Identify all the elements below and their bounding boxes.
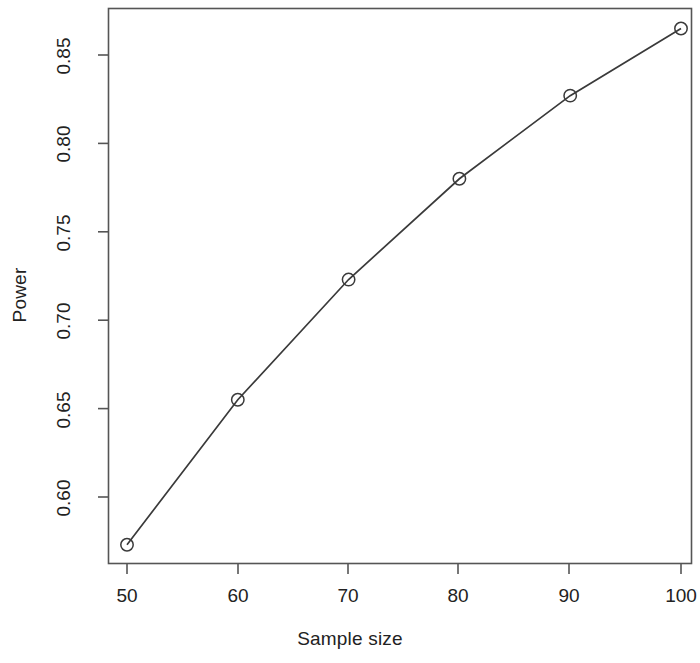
y-tick-label-2: 0.75 bbox=[53, 203, 75, 263]
x-tick-label-4: 90 bbox=[539, 585, 599, 607]
plot-panel-border bbox=[109, 9, 692, 564]
x-tick-label-5: 100 bbox=[651, 585, 700, 607]
y-tick-label-5: 0.60 bbox=[53, 468, 75, 528]
y-tick-label-3: 0.70 bbox=[53, 291, 75, 351]
x-tick-label-0: 50 bbox=[97, 585, 157, 607]
y-axis-title: Power bbox=[9, 245, 31, 345]
power-data-line bbox=[127, 28, 681, 544]
power-data-markers bbox=[121, 22, 687, 551]
y-tick-label-1: 0.80 bbox=[53, 114, 75, 174]
y-tick-label-0: 0.85 bbox=[53, 26, 75, 86]
x-axis-tick-marks bbox=[127, 563, 681, 574]
x-tick-label-3: 80 bbox=[428, 585, 488, 607]
y-axis-tick-marks bbox=[98, 55, 108, 497]
x-axis-title: Sample size bbox=[0, 628, 700, 650]
x-tick-label-1: 60 bbox=[208, 585, 268, 607]
y-tick-label-4: 0.65 bbox=[53, 380, 75, 440]
x-tick-label-2: 70 bbox=[318, 585, 378, 607]
plot-canvas bbox=[0, 0, 700, 663]
power-curve-figure: 0.85 0.80 0.75 0.70 0.65 0.60 50 60 70 8… bbox=[0, 0, 700, 663]
